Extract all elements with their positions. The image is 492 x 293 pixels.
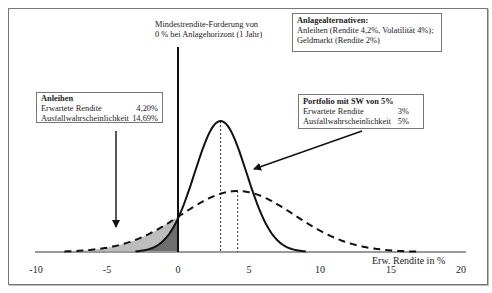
portfolio-row-return: Erwartete Rendite 3% [303,107,419,117]
min-return-label-line2: 0 % bei Anlagehorizont (1 Jahr) [155,30,262,40]
bonds-default-label: Ausfallwahrscheinlichkeit [41,114,129,124]
bonds-row-return: Erwartete Rendite 4,20% [41,104,158,114]
x-tick: 20 [456,264,466,275]
portfolio-box: Portfolio mit SW von 5% Erwartete Rendit… [298,94,424,129]
portfolio-title: Portfolio mit SW von 5% [303,97,419,107]
portfolio-arrow [254,131,362,169]
x-tick: 10 [315,264,325,275]
min-return-label: Mindestrendite-Forderung von 0 % bei Anl… [155,20,262,40]
bonds-return-label: Erwartete Rendite [41,104,102,114]
alternatives-title: Anlagealternativen: [297,16,437,26]
x-tick: 0 [176,264,181,275]
x-tick: 5 [247,264,252,275]
alternatives-line2: Geldmarkt (Rendite 2%) [297,36,437,46]
bonds-return-value: 4,20% [136,104,158,114]
x-tick: 15 [386,264,396,275]
portfolio-default-label: Ausfallwahrscheinlichkeit [303,117,391,127]
x-tick: -10 [29,264,42,275]
min-return-label-line1: Mindestrendite-Forderung von [155,20,262,30]
bonds-distribution-curve [64,191,419,252]
x-tick: -5 [103,264,111,275]
portfolio-return-label: Erwartete Rendite [303,107,364,117]
alternatives-line1: Anleihen (Rendite 4,2%, Volatilität 4%); [297,26,437,36]
bonds-row-default: Ausfallwahrscheinlichkeit 14,69% [41,114,158,124]
alternatives-box: Anlagealternativen: Anleihen (Rendite 4,… [292,13,442,52]
bonds-box: Anleihen Erwartete Rendite 4,20% Ausfall… [36,92,163,123]
bonds-default-value: 14,69% [132,114,158,124]
portfolio-default-value: 5% [398,117,409,127]
portfolio-return-value: 3% [398,107,409,117]
portfolio-row-default: Ausfallwahrscheinlichkeit 5% [303,117,419,127]
x-axis-label: Erw. Rendite in % [372,256,445,266]
bonds-title: Anleihen [41,94,158,104]
